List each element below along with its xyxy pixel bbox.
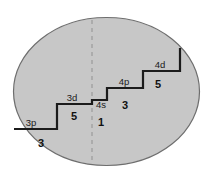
count-label-4d: 5 [155,78,161,90]
diagram-canvas: 3p 3d 4s 4p 4d 3 5 1 3 5 [0,0,213,182]
orbital-label-4s: 4s [96,99,106,110]
orbital-label-4p: 4p [119,76,130,87]
orbital-label-3d: 3d [67,92,78,103]
count-label-3d: 5 [71,110,77,122]
count-label-4s: 1 [98,116,104,128]
orbital-label-3p: 3p [26,117,37,128]
orbital-label-4d: 4d [155,59,166,70]
orbital-energy-diagram: 3p 3d 4s 4p 4d 3 5 1 3 5 [0,0,213,182]
count-label-4p: 3 [122,99,128,111]
count-label-3p: 3 [38,137,44,149]
